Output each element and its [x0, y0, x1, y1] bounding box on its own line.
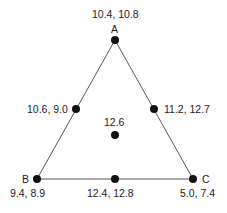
midpoint-ab-values: 10.6, 9.0: [27, 103, 68, 115]
midpoint-ac-point: [150, 105, 158, 113]
midpoint-ab-point: [72, 105, 80, 113]
vertex-a-label: A: [111, 23, 118, 35]
vertex-c-point: [189, 175, 197, 183]
vertex-b-point: [33, 175, 41, 183]
vertex-a-values: 10.4, 10.8: [92, 8, 139, 20]
midpoint-bc-point: [111, 175, 119, 183]
vertex-b-label: B: [22, 173, 29, 185]
centroid-value: 12.6: [104, 116, 124, 128]
midpoint-bc-values: 12.4, 12.8: [87, 187, 134, 199]
centroid-point: [111, 131, 119, 139]
vertex-b-values: 9.4, 8.9: [10, 187, 45, 199]
vertex-a-point: [111, 36, 119, 44]
midpoint-ac-values: 11.2, 12.7: [164, 103, 210, 115]
vertex-c-label: C: [202, 173, 210, 185]
vertex-c-values: 5.0, 7.4: [180, 187, 215, 199]
